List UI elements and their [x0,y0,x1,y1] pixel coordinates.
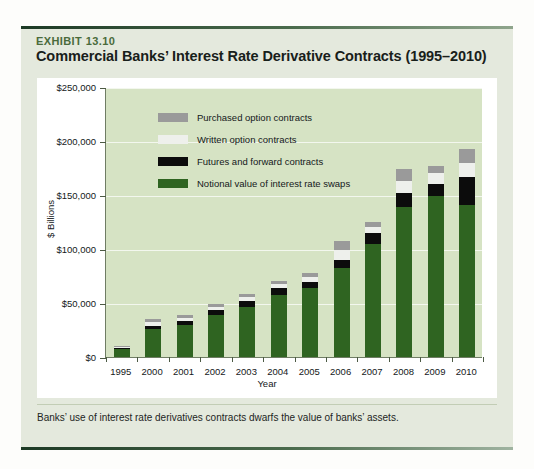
exhibit-title: Commercial Banks’ Interest Rate Derivati… [36,48,496,64]
y-axis-tick-label: $200,000 [56,136,96,147]
exhibit-caption: Banks’ use of interest rate derivatives … [37,412,497,423]
legend-swatch-icon [158,135,188,144]
x-axis-title: Year [37,378,497,389]
bar-segment [145,329,161,357]
bar-2002 [208,304,224,357]
x-axis-tick [326,357,327,362]
bar-segment [334,250,350,260]
y-axis-tick-label: $50,000 [62,298,96,309]
bar-segment [396,193,412,207]
bar-2006 [334,241,350,357]
bar-2009 [428,166,444,357]
bar-segment [334,260,350,269]
x-axis-tick [452,357,453,362]
bar-segment [365,233,381,243]
legend-item[interactable]: Notional value of interest rate swaps [158,172,350,194]
x-axis-tick [106,357,107,362]
legend-label: Notional value of interest rate swaps [197,178,350,189]
bar-segment [365,244,381,357]
bar-segment [459,177,475,205]
legend-swatch-icon [158,179,188,188]
legend-label: Purchased option contracts [197,112,312,123]
chart-frame: $ Billions Purchased option contractsWri… [37,78,497,398]
x-axis-tick [200,357,201,362]
page-root: EXHIBIT 13.10 Commercial Banks’ Interest… [0,0,534,469]
bar-segment [428,166,444,174]
x-axis-tick [483,357,484,362]
y-axis-title: $ Billions [45,200,56,238]
x-axis-tick [357,357,358,362]
x-axis-tick [420,357,421,362]
bar-segment [396,207,412,357]
legend-label: Futures and forward contracts [197,156,323,167]
bar-segment [271,295,287,357]
gridline [106,304,482,305]
bar-segment [459,163,475,177]
x-axis-tick [389,357,390,362]
bar-segment [239,307,255,357]
plot-area: Purchased option contractsWritten option… [105,88,482,358]
chart-legend: Purchased option contractsWritten option… [158,106,350,194]
bar-segment [114,349,130,357]
gridline [106,88,482,89]
bar-segment [459,149,475,163]
bar-segment [428,196,444,357]
x-axis-tick [169,357,170,362]
bar-2004 [271,281,287,357]
legend-swatch-icon [158,157,188,166]
y-axis-tick [100,88,106,89]
bar-segment [177,325,193,357]
caption-divider [37,404,497,405]
legend-item[interactable]: Futures and forward contracts [158,150,350,172]
bar-segment [459,205,475,357]
bar-segment [334,241,350,250]
legend-label: Written option contracts [197,134,297,145]
bar-2008 [396,169,412,357]
y-axis-tick [100,304,106,305]
y-axis-tick [100,250,106,251]
gridline [106,250,482,251]
bar-2005 [302,273,318,357]
top-rule [21,26,513,29]
bar-2007 [365,222,381,358]
bar-2001 [177,315,193,357]
x-axis-tick [263,357,264,362]
bar-segment [208,315,224,357]
y-axis-tick-label: $250,000 [56,82,96,93]
legend-item[interactable]: Written option contracts [158,128,350,150]
bar-segment [396,181,412,193]
gridline [106,196,482,197]
bar-2010 [459,149,475,357]
y-axis-tick-label: $100,000 [56,244,96,255]
bar-segment [334,268,350,357]
x-axis-tick [232,357,233,362]
y-axis-tick [100,142,106,143]
y-axis-tick-label: $150,000 [56,190,96,201]
bar-segment [428,173,444,184]
legend-item[interactable]: Purchased option contracts [158,106,350,128]
exhibit-number: EXHIBIT 13.10 [36,35,115,47]
legend-swatch-icon [158,113,188,122]
x-axis-tick-label: 2010 [446,366,486,377]
bar-segment [271,288,287,295]
bar-segment [428,184,444,196]
y-axis-tick-label: $0 [85,352,96,363]
bar-segment [302,288,318,357]
x-axis-tick [295,357,296,362]
bar-segment [396,169,412,181]
bar-2000 [145,319,161,357]
x-axis-tick [137,357,138,362]
bar-1995 [114,346,130,357]
y-axis-tick [100,196,106,197]
bar-2003 [239,294,255,357]
bottom-rule [21,447,513,450]
